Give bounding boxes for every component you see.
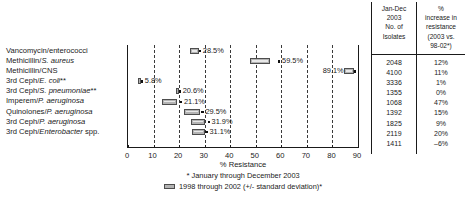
value-marker-2003	[278, 60, 280, 62]
category-label-text-0: Vancomycin/enterococci	[6, 46, 88, 55]
table-column-isolates: 204841003336135510681392182521191411	[372, 58, 416, 149]
table-cell-increase: 11%	[417, 68, 465, 78]
data-row: 59.5%	[127, 56, 359, 66]
table-cell-isolates: 1068	[372, 98, 416, 108]
data-row: 31.1%	[127, 127, 359, 137]
table-header-line: 2003	[372, 13, 416, 22]
table-header-line: increase in	[417, 13, 465, 22]
x-axis-title: % Resistance	[127, 160, 359, 170]
value-marker-2003	[180, 101, 182, 103]
category-label-text-4: 3rd Ceph/S. pneumoniae**	[6, 86, 96, 95]
category-label: 3rd Ceph/E. coli**	[6, 76, 126, 86]
table-cell-isolates: 1355	[372, 88, 416, 98]
data-row: 20.6%	[127, 86, 359, 96]
legend-sd-range-text: 1998 through 2002 (+/- standard deviatio…	[179, 182, 322, 191]
table-cell-increase: 12%	[417, 58, 465, 68]
value-marker-2003	[179, 90, 181, 92]
value-marker-2003	[199, 50, 201, 52]
category-label: Methicillin/S. aureus	[6, 56, 126, 66]
value-marker-2003	[205, 131, 207, 133]
category-label-text-5: Imperem/P. aeruginosa	[6, 96, 84, 105]
category-label-text-8: 3rd Ceph/Enterobacter spp.	[6, 127, 99, 136]
asterisk-icon: *	[186, 171, 189, 180]
table-cell-increase: 15%	[417, 108, 465, 118]
value-marker-2003	[354, 70, 356, 72]
table-cell-isolates: 2119	[372, 129, 416, 139]
category-label: Vancomycin/enterococci	[6, 46, 126, 56]
category-label-text-2: Methicillin/CNS	[6, 66, 57, 75]
value-marker-2003	[201, 111, 203, 113]
data-row: 5.8%	[127, 76, 359, 86]
table-cell-increase: 0%	[417, 88, 465, 98]
table-header-line: (2003 vs.	[417, 32, 465, 41]
table-column-increase: 12%11%1%0%47%15%9%20%–6%	[417, 58, 465, 149]
table-cell-increase: –6%	[417, 139, 465, 149]
category-label-text-6: Quinolones/P. aeruginosa	[6, 107, 92, 116]
table-cell-isolates: 1392	[372, 108, 416, 118]
category-label: 3rd Ceph/Enterobacter spp.	[6, 127, 126, 137]
sd-range-box	[191, 119, 205, 125]
table-header-isolates: Jan-Dec2003No. ofIsolates	[372, 4, 416, 41]
table-header-line: %	[417, 4, 465, 13]
data-row: 29.5%	[127, 107, 359, 117]
legend-swatch-icon	[164, 184, 175, 189]
value-label: 31.1%	[209, 127, 230, 137]
sd-range-box	[190, 48, 198, 54]
table-header-line: resistance	[417, 22, 465, 31]
data-row: 21.1%	[127, 97, 359, 107]
value-label: 28.5%	[203, 46, 224, 56]
category-label-text-3: 3rd Ceph/E. coli**	[6, 76, 66, 85]
table-cell-isolates: 1411	[372, 139, 416, 149]
category-label: 3rd Ceph/S. pneumoniae**	[6, 86, 126, 96]
table-cell-isolates: 1825	[372, 119, 416, 129]
table-cell-isolates: 4100	[372, 68, 416, 78]
table-cell-increase: 1%	[417, 78, 465, 88]
category-label: Methicillin/CNS	[6, 66, 126, 76]
table-cell-increase: 47%	[417, 98, 465, 108]
value-label: 89.1%	[323, 66, 344, 76]
table-header-line: 98-02*)	[417, 41, 465, 50]
data-row: 28.5%	[127, 46, 359, 56]
value-marker-2003	[208, 121, 210, 123]
chart-page: Vancomycin/enterococci Methicillin/S. au…	[0, 0, 465, 205]
table-cell-isolates: 2048	[372, 58, 416, 68]
sd-range-box	[162, 99, 177, 105]
table-header-line: Jan-Dec	[372, 4, 416, 13]
category-label: 3rd Ceph/P. aeruginosa	[6, 117, 126, 127]
table-cell-increase: 9%	[417, 119, 465, 129]
legend-sd-range: 1998 through 2002 (+/- standard deviatio…	[100, 182, 386, 192]
category-label-text-7: 3rd Ceph/P. aeruginosa	[6, 117, 85, 126]
sd-range-box	[184, 109, 200, 115]
value-marker-2003	[141, 80, 143, 82]
data-row: 89.1%	[127, 66, 359, 76]
table-cell-isolates: 3336	[372, 78, 416, 88]
data-row: 31.9%	[127, 117, 359, 127]
table-header-line: No. of	[372, 22, 416, 31]
value-label: 5.8%	[145, 76, 162, 86]
sd-range-box	[192, 129, 205, 135]
table-header-line: Isolates	[372, 32, 416, 41]
footnote-2003: * January through December 2003	[127, 171, 359, 181]
table-header-increase: %increase inresistance(2003 vs.98-02*)	[417, 4, 465, 50]
category-label-text-1: Methicillin/S. aureus	[6, 56, 74, 65]
summary-table: Jan-Dec2003No. ofIsolates %increase inre…	[371, 2, 465, 154]
table-header-rule	[371, 54, 465, 55]
value-label: 31.9%	[212, 117, 233, 127]
value-label: 59.5%	[282, 56, 303, 66]
table-cell-increase: 20%	[417, 129, 465, 139]
data-series-layer: 28.5%59.5%89.1%5.8%20.6%21.1%29.5%31.9%3…	[127, 45, 359, 148]
value-label: 20.6%	[183, 86, 204, 96]
category-axis-labels: Vancomycin/enterococci Methicillin/S. au…	[6, 46, 126, 137]
value-label: 21.1%	[184, 97, 205, 107]
category-label: Quinolones/P. aeruginosa	[6, 107, 126, 117]
footnote-2003-text: January through December 2003	[192, 171, 300, 180]
category-label: Imperem/P. aeruginosa	[6, 96, 126, 106]
value-label: 29.5%	[205, 107, 226, 117]
sd-range-box	[250, 58, 270, 64]
